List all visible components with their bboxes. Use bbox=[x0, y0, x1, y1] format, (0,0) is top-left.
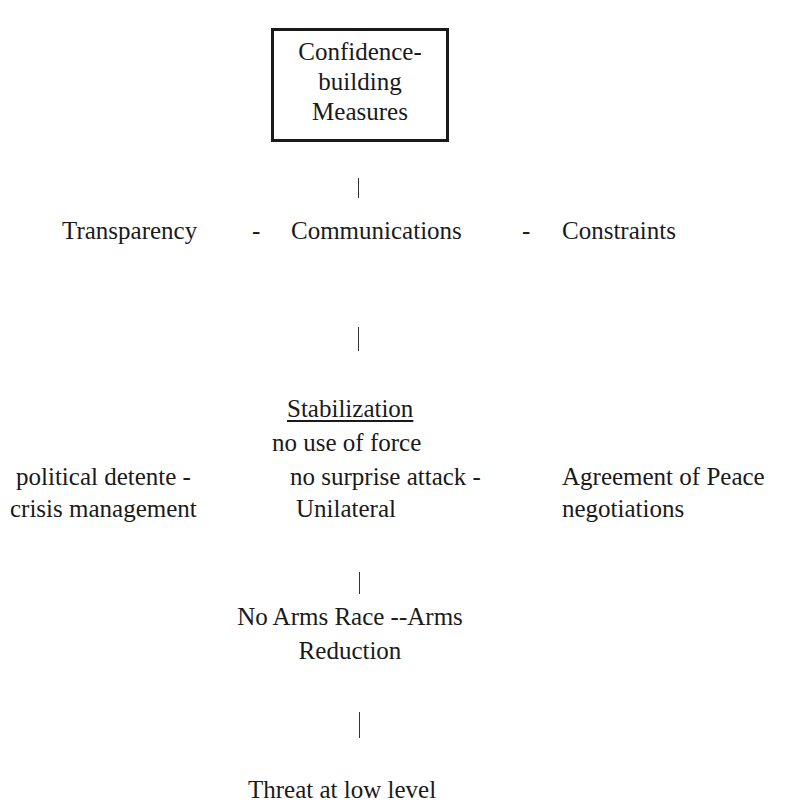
level4-threat-at-low-level: Threat at low level bbox=[248, 775, 436, 802]
root-node-line: Measures bbox=[274, 97, 446, 127]
level2-crisis-management: crisis management bbox=[10, 494, 197, 524]
level1-communications: Communications bbox=[291, 216, 462, 246]
level3-line: No Arms Race --Arms bbox=[200, 602, 500, 632]
level2-no-surprise-attack: no surprise attack - bbox=[290, 462, 481, 492]
connector-line bbox=[359, 572, 360, 594]
level1-constraints: Constraints bbox=[562, 216, 676, 246]
connector-line bbox=[359, 712, 360, 738]
level1-separator: - bbox=[252, 216, 260, 246]
root-node-line: Confidence- bbox=[274, 37, 446, 67]
level3-no-arms-race: No Arms Race --Arms Reduction bbox=[200, 602, 500, 666]
level1-separator: - bbox=[522, 216, 530, 246]
level1-transparency: Transparency bbox=[62, 216, 197, 246]
level2-agreement-of-peace: Agreement of Peace bbox=[562, 462, 765, 492]
level3-line: Reduction bbox=[200, 636, 500, 666]
level2-no-use-of-force: no use of force bbox=[272, 428, 421, 458]
root-node-confidence-building-measures: Confidence- building Measures bbox=[271, 28, 449, 142]
level2-political-detente: political detente - bbox=[16, 462, 191, 492]
level2-negotiations: negotiations bbox=[562, 494, 684, 524]
level2-unilateral: Unilateral bbox=[296, 494, 396, 524]
connector-line bbox=[358, 327, 359, 351]
connector-line bbox=[358, 178, 359, 198]
root-node-line: building bbox=[274, 67, 446, 97]
level2-heading-stabilization: Stabilization bbox=[287, 394, 413, 424]
